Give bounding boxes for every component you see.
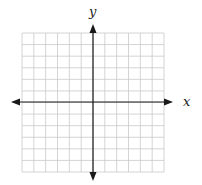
- x-axis-label: x: [183, 94, 191, 109]
- x-axis-arrow-left-icon: [11, 99, 20, 106]
- y-axis-arrow-up-icon: [90, 24, 97, 33]
- x-axis-arrow-right-icon: [164, 99, 173, 106]
- coordinate-plane: x y: [0, 0, 202, 185]
- y-axis-label: y: [88, 4, 97, 19]
- y-axis-arrow-down-icon: [90, 172, 97, 181]
